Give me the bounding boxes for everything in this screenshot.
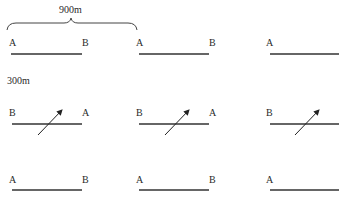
point-label: B xyxy=(209,38,216,48)
point-label: B xyxy=(82,38,89,48)
point-label: A xyxy=(266,38,273,48)
arrow-icon xyxy=(165,110,189,135)
width-label: 900m xyxy=(59,5,82,15)
point-label: B xyxy=(136,108,143,118)
diagram-canvas xyxy=(0,0,343,201)
point-label: B xyxy=(266,108,273,118)
point-label: A xyxy=(82,108,89,118)
arrow-icon xyxy=(295,110,319,135)
point-label: A xyxy=(9,38,16,48)
point-label: A xyxy=(136,38,143,48)
point-label: B xyxy=(9,108,16,118)
arrow-icon xyxy=(38,110,62,135)
width-brace xyxy=(7,18,137,30)
point-label: A xyxy=(266,175,273,185)
point-label: A xyxy=(9,175,16,185)
point-label: A xyxy=(136,175,143,185)
point-label: B xyxy=(209,175,216,185)
point-label: A xyxy=(209,108,216,118)
point-label: B xyxy=(82,175,89,185)
height-label: 300m xyxy=(7,76,30,86)
